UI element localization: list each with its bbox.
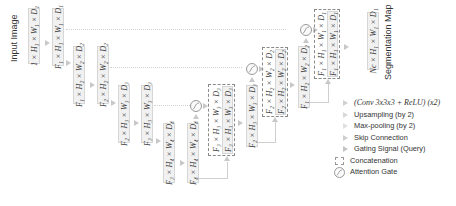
block-dec1-gated: F₁ × H₁ × W₁ × D₁ [316, 11, 326, 77]
block-dec2-gated: F₂ × H₂ × W₂ × D₂ [264, 49, 274, 115]
upsampling-line [227, 162, 228, 179]
conv-arrow [45, 40, 50, 46]
conv-arrow [290, 82, 295, 88]
upsampling-line [199, 178, 227, 179]
gating-signal-arrow [193, 114, 199, 119]
segmentation-map-label: Segmentation Map [383, 4, 393, 80]
upsampling-arrow [272, 117, 278, 122]
attention-gate-icon [246, 63, 258, 75]
input-image-label: Input Image [9, 14, 19, 62]
conv-arrow [90, 82, 95, 88]
block-input: 1 × H₁ × W₁ × D₁ [28, 8, 40, 64]
block-enc2a: F₁ × H₂ × W₂ × D₂ [73, 46, 85, 104]
block-dec2: F₁ × H₂ × W₂ × D₂ [298, 46, 310, 108]
block-dec3: F₂ × H₃ × W₃ × D₃ [246, 85, 258, 147]
block-enc3a: F₂ × H₃ × W₃ × D₃ [118, 85, 130, 143]
attention-gate-icon [190, 100, 202, 112]
upsampling-arrow [224, 156, 230, 161]
skip-connection-line [154, 105, 194, 106]
gating-signal-arrow [303, 38, 309, 43]
block-dec2-up: F₂ × H₂ × W₂ × D₂ [275, 49, 286, 115]
conv-arrow [134, 120, 139, 126]
attention-gate-icon [300, 24, 312, 36]
maxpool-arrow [156, 138, 161, 144]
upsampling-line [310, 102, 328, 103]
block-enc2b: F₂ × H₂ × W₂ × D₂ [97, 46, 109, 104]
conv-arrow [180, 160, 185, 166]
block-dec3-gated: F₃ × H₃ × W₃ × D₃ [210, 86, 221, 154]
upsampling-arrow [325, 79, 331, 84]
block-dec1-up: F₁ × H₁ × W₁ × D₁ [327, 11, 338, 77]
skip-connection-line [66, 29, 286, 30]
maxpool-arrow [66, 60, 71, 66]
upsampling-line [258, 142, 275, 143]
block-enc1: F₁ × H₁ × W₁ × D₁ [52, 8, 64, 66]
conv-arrow [238, 120, 243, 126]
block-enc4a: F₃ × H₄ × W₄ × D₄ [163, 123, 175, 183]
upsampling-line [275, 122, 276, 143]
block-enc4b: F₄ × H₄ × W₄ × D₄ [187, 123, 199, 183]
attention-unet-diagram: Input Image 1 × H₁ × W₁ × D₁ F₁ × H₁ × W… [0, 0, 456, 206]
maxpool-arrow [111, 100, 116, 106]
gating-signal-arrow [249, 77, 255, 82]
upsampling-line [328, 84, 329, 103]
block-output: Nc × H₁ × W₁ × D₁ [367, 12, 379, 70]
block-enc3b: F₃ × H₃ × W₃ × D₃ [141, 85, 153, 143]
dashed-box-icon [335, 157, 344, 165]
conv-arrow [344, 44, 349, 50]
skip-connection-line [110, 67, 242, 68]
block-dec3-up: F₃ × H₃ × W₃ × D₃ [222, 86, 233, 154]
